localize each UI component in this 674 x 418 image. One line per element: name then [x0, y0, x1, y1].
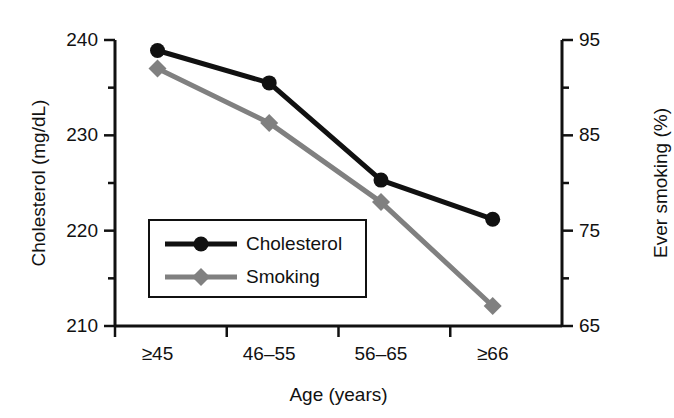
legend-label: Cholesterol [246, 228, 342, 260]
right-axis-title: Ever smoking (%) [648, 40, 674, 326]
right-axis-tick-label: 75 [579, 221, 639, 241]
chart-figure: 240 230 220 210 95 85 75 65 ≥45 46–55 56… [0, 0, 674, 418]
x-axis-ticks [115, 326, 450, 337]
series-line-cholesterol [150, 43, 500, 227]
left-axis-title: Cholesterol (mg/dL) [26, 40, 52, 326]
legend-swatch-circle-icon [163, 228, 239, 260]
right-axis-tick-label: 95 [579, 30, 639, 50]
legend-entry-cholesterol: Cholesterol [150, 228, 365, 260]
legend-swatch-diamond-icon [163, 261, 239, 293]
x-axis-tick-label: ≥66 [433, 344, 553, 364]
right-axis-ticks [562, 40, 573, 326]
legend-label: Smoking [246, 261, 320, 293]
x-axis-tick-label: ≥45 [97, 344, 217, 364]
right-axis-tick-label: 85 [579, 125, 639, 145]
x-axis-tick-label: 56–65 [321, 344, 441, 364]
x-axis-title: Age (years) [115, 384, 562, 406]
legend-entry-smoking: Smoking [150, 261, 365, 293]
right-axis-tick-label: 65 [579, 316, 639, 336]
chart-legend: Cholesterol Smoking [148, 219, 367, 298]
x-axis-tick-label: 46–55 [209, 344, 329, 364]
left-axis-ticks [104, 40, 115, 326]
